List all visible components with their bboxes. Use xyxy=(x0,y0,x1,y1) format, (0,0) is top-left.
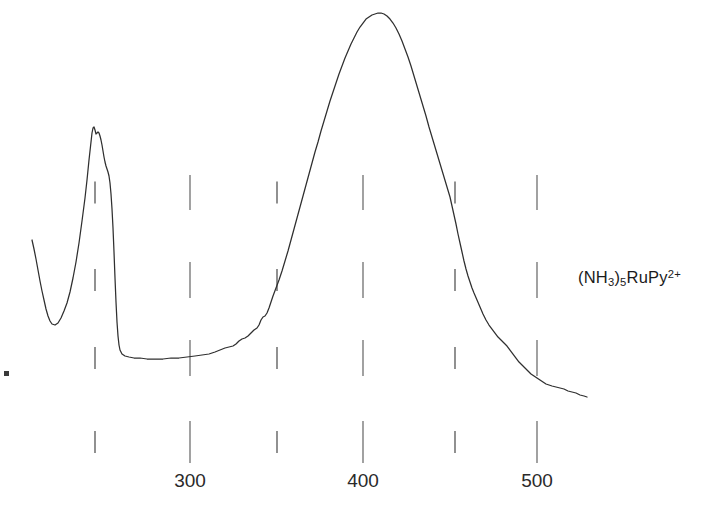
spectrum-plot xyxy=(0,0,710,521)
species-label-charge: 2+ xyxy=(668,268,681,280)
spectrum-figure: (NH3)5RuPy2+ 300400500 xyxy=(0,0,710,521)
x-tick-label: 300 xyxy=(174,471,206,490)
species-label-rupy: RuPy xyxy=(627,268,668,286)
corner-dot-marker xyxy=(4,371,9,376)
spectrum-curve xyxy=(32,13,587,397)
species-label-open: (NH xyxy=(578,268,608,286)
axis-tick-marks xyxy=(95,175,537,463)
x-tick-label: 500 xyxy=(521,471,553,490)
x-tick-label: 400 xyxy=(347,471,379,490)
species-annotation-label: (NH3)5RuPy2+ xyxy=(578,269,681,288)
